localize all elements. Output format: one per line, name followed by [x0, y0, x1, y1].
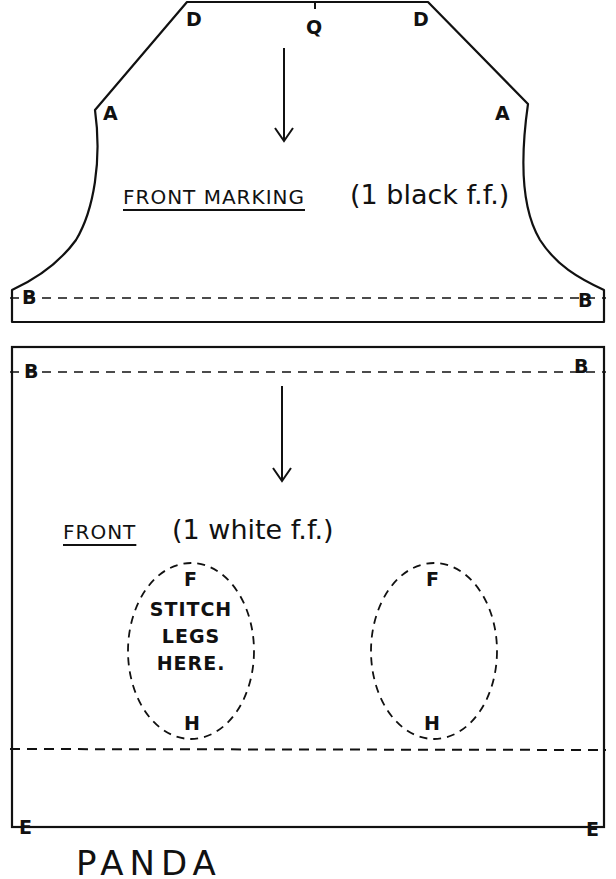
marker-f-left: F [184, 570, 197, 589]
stitch-legs-instruction: STITCH LEGS HERE. [131, 596, 251, 677]
front-outline [12, 347, 604, 827]
down-arrow-icon [273, 386, 291, 481]
marker-b-right-bottom: B [574, 357, 588, 376]
marker-q: Q [306, 18, 322, 37]
marker-e-left: E [19, 818, 32, 837]
marker-h-right: H [424, 714, 440, 733]
front-marking-title: FRONT MARKING [123, 187, 305, 207]
instruction-line: LEGS [131, 623, 251, 650]
front-marking-outline [12, 2, 604, 322]
front-marking-title-text: FRONT MARKING [123, 185, 305, 209]
instruction-line: HERE. [131, 650, 251, 677]
front-title-text: FRONT [63, 520, 136, 544]
marker-d-right: D [413, 10, 429, 29]
down-arrow-icon [275, 48, 293, 141]
e-fold-line [10, 749, 606, 750]
marker-f-right: F [426, 570, 439, 589]
marker-h-left: H [184, 714, 200, 733]
footer-partial-text: PANDA [76, 846, 222, 879]
instruction-line: STITCH [131, 596, 251, 623]
marker-b-left-bottom: B [24, 362, 38, 381]
marker-a-right: A [495, 104, 510, 123]
marker-a-left: A [103, 104, 118, 123]
marker-e-right: E [586, 820, 599, 839]
front-marking-note: (1 black f.f.) [350, 181, 509, 208]
marker-d-left: D [186, 10, 202, 29]
marker-b-right-top: B [578, 291, 592, 310]
front-note: (1 white f.f.) [172, 516, 334, 543]
front-title: FRONT [63, 522, 136, 542]
marker-b-left-top: B [22, 288, 36, 307]
